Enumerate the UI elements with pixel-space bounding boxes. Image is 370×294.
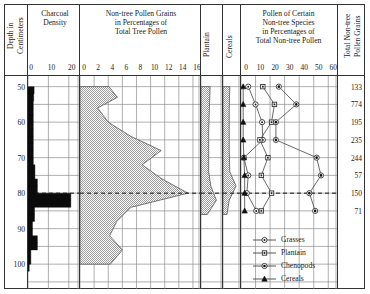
nontree-tick-6: 6 — [124, 63, 128, 72]
nontree-tick-4: 4 — [110, 63, 114, 72]
legend-label: Chenopods — [281, 261, 315, 270]
legend-item-cereals: Cereals — [252, 272, 315, 285]
nontree-tick-2: 2 — [96, 63, 100, 72]
nontree-tick-10: 10 — [151, 63, 158, 72]
square-icon — [252, 247, 278, 259]
total-title-line2: Pollen Grains — [354, 7, 363, 65]
species-tick-60: 60 — [330, 63, 337, 72]
circle-dot-icon — [252, 234, 278, 246]
nontree-plot — [80, 76, 200, 289]
total-count-60: 195 — [339, 118, 362, 127]
plantain-column-title: Plantain — [203, 24, 212, 66]
depth-label-90: 90 — [5, 224, 25, 233]
chart-legend: GrassesPlantainChenopodsCereals — [252, 233, 315, 285]
sep-species-total — [337, 4, 338, 289]
legend-item-plantain: Plantain — [252, 246, 315, 259]
charcoal-density-chart — [28, 76, 79, 289]
cereals-plot — [223, 76, 240, 289]
species-tick-30: 30 — [286, 63, 293, 72]
species-title-line4: Total Non-tree Pollen — [238, 37, 339, 46]
depth-label-70: 70 — [5, 153, 25, 162]
cereals-chart — [223, 76, 240, 289]
total-count-80: 150 — [339, 189, 362, 198]
charcoal-tick-0: 0 — [29, 63, 33, 72]
circle-icon — [252, 260, 278, 272]
plantain-plot — [201, 76, 222, 289]
depth-axis-title-line2: Centimeters — [17, 6, 26, 66]
depth-label-80: 80 — [5, 189, 25, 198]
depth-label-50: 50 — [5, 82, 25, 91]
total-count-75: 57 — [339, 171, 362, 180]
species-tick-10: 10 — [257, 63, 264, 72]
nontree-title-line3: Total Tree Pollen — [82, 28, 200, 37]
nontree-tick-14: 14 — [179, 63, 186, 72]
plantain-chart — [201, 76, 222, 289]
charcoal-tick-20: 20 — [68, 63, 75, 72]
legend-label: Grasses — [281, 235, 305, 244]
legend-label: Cereals — [281, 274, 304, 283]
total-title-line1: Total Non-tree — [344, 7, 353, 65]
total-count-50: 133 — [339, 82, 362, 91]
charcoal-tick-10: 10 — [48, 63, 55, 72]
nontree-tick-12: 12 — [165, 63, 172, 72]
species-tick-20: 20 — [271, 63, 278, 72]
nontree-tick-0: 0 — [82, 63, 86, 72]
cereals-column-title: Cereals — [226, 28, 235, 66]
total-count-70: 244 — [339, 153, 362, 162]
species-tick-0: 0 — [244, 63, 248, 72]
total-count-55: 774 — [339, 100, 362, 109]
charcoal-plot — [28, 76, 79, 289]
pollen-diagram: Depth in Centimeters Charcoal Density No… — [0, 0, 370, 294]
species-tick-50: 50 — [315, 63, 322, 72]
legend-item-chenopods: Chenopods — [252, 259, 315, 272]
total-count-65: 235 — [339, 135, 362, 144]
depth-label-100: 100 — [5, 260, 25, 269]
depth-label-60: 60 — [5, 118, 25, 127]
species-tick-40: 40 — [300, 63, 307, 72]
depth-axis-title-line1: Depth in — [7, 6, 16, 66]
nontree-tick-8: 8 — [139, 63, 143, 72]
charcoal-title-line2: Density — [31, 19, 79, 28]
nontree-pollen-chart — [80, 76, 200, 289]
triangle-icon — [252, 273, 278, 285]
legend-item-grasses: Grasses — [252, 233, 315, 246]
legend-label: Plantain — [281, 248, 306, 257]
total-count-85: 71 — [339, 206, 362, 215]
